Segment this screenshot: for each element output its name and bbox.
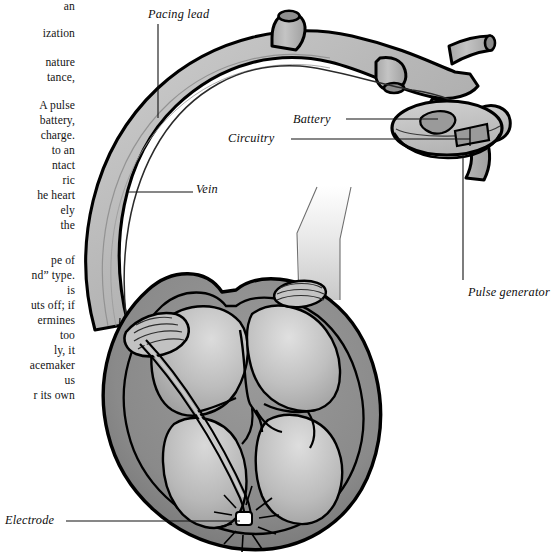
battery-component [420,111,455,133]
heart [103,274,380,552]
label-battery: Battery [293,112,331,127]
pulse-generator[interactable] [392,101,510,158]
figure-page: an ization nature tance, A pulse battery… [0,0,557,556]
label-electrode: Electrode [5,513,54,528]
label-pacing-lead: Pacing lead [148,7,209,22]
label-vein: Vein [196,182,218,197]
label-circuitry: Circuitry [228,131,274,146]
label-pulse-generator: Pulse generator [468,285,550,300]
pacemaker-illustration [0,0,557,556]
